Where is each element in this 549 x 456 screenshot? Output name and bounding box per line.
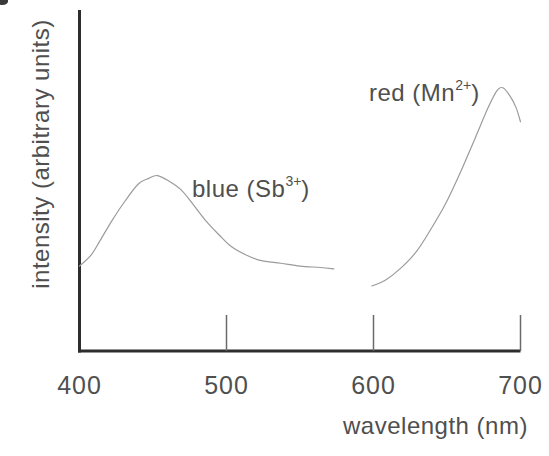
x-tick-label: 700 (498, 371, 543, 400)
curve-red-mn (372, 87, 520, 286)
series-annotation-blue-close: ) (301, 175, 310, 202)
x-tick-label: 600 (351, 371, 396, 400)
y-axis-label: intensity (arbitrary units) (27, 4, 57, 304)
series-annotation-red-text: red (Mn (369, 79, 455, 106)
series-annotation-blue-superscript: 3+ (285, 173, 301, 189)
series-annotation-blue-text: blue (Sb (192, 175, 285, 202)
x-axis-label: wavelength (nm) (343, 412, 528, 440)
spectrum-figure: intensity (arbitrary units) 400500600700… (0, 0, 549, 456)
x-tick-labels: 400500600700 (0, 371, 549, 397)
series-annotation-red-close: ) (471, 79, 480, 106)
x-tick-label: 400 (57, 371, 102, 400)
series-annotation-blue-sb: blue (Sb3+) (192, 175, 310, 203)
x-tick-label: 500 (204, 371, 249, 400)
series-annotation-red-superscript: 2+ (455, 77, 471, 93)
series-annotation-red-mn: red (Mn2+) (369, 79, 480, 107)
